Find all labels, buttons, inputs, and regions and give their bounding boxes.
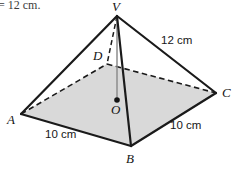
cropped-text-fragment: = 12 cm. — [0, 0, 40, 11]
vertex-label-b: B — [126, 152, 134, 165]
vertex-label-o: O — [111, 103, 120, 116]
pyramid-figure: = 12 cm. V D A C O B 12 cm 10 cm 10 cm — [0, 0, 234, 169]
pyramid-drawing — [0, 0, 234, 169]
dimension-label-slant-edge: 12 cm — [161, 35, 192, 47]
dimension-label-base-left: 10 cm — [45, 129, 76, 141]
vertex-label-a: A — [7, 113, 15, 126]
vertex-label-c: C — [222, 86, 231, 99]
vertex-label-d: D — [93, 49, 102, 62]
vertex-label-v: V — [112, 0, 120, 13]
dimension-label-base-right: 10 cm — [170, 120, 201, 132]
